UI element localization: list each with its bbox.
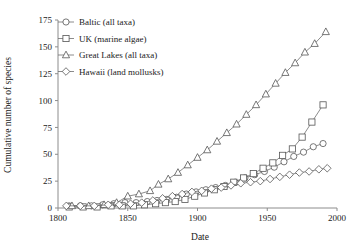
square-marker xyxy=(270,160,276,166)
diamond-marker xyxy=(286,171,294,179)
square-marker xyxy=(250,171,256,177)
diamond-marker xyxy=(276,173,284,181)
legend-item-3[interactable]: Great Lakes (all taxa) xyxy=(58,50,157,60)
diamond-marker xyxy=(256,177,264,185)
y-tick-label: 100 xyxy=(39,96,53,106)
circle-marker xyxy=(63,19,69,25)
diamond-marker xyxy=(315,166,323,174)
square-marker xyxy=(63,35,69,41)
triangle-marker xyxy=(165,175,172,182)
triangle-marker xyxy=(62,51,69,58)
legend-item-1[interactable]: Baltic (all taxa) xyxy=(58,17,135,27)
y-tick-label: 175 xyxy=(39,15,53,25)
y-tick-label: 0 xyxy=(48,203,53,213)
circle-marker xyxy=(281,159,287,165)
x-tick-label: 2000 xyxy=(328,213,347,223)
x-tick-label: 1850 xyxy=(119,213,138,223)
triangle-marker xyxy=(155,180,162,187)
circle-marker xyxy=(291,153,297,159)
triangle-marker xyxy=(322,28,329,35)
triangle-marker xyxy=(194,154,201,161)
legend-label: Hawaii (land mollusks) xyxy=(79,67,164,77)
legend-label: UK (marine algae) xyxy=(79,34,146,44)
x-tick-label: 1950 xyxy=(258,213,277,223)
triangle-marker xyxy=(174,169,181,176)
triangle-marker xyxy=(223,129,230,136)
chart-plot-area: 0255075100125150175 18001850190019502000… xyxy=(0,0,356,247)
y-axis: 0255075100125150175 xyxy=(39,15,59,213)
triangle-marker xyxy=(204,146,211,153)
circle-marker xyxy=(300,149,306,155)
legend-label: Great Lakes (all taxa) xyxy=(79,50,157,60)
chart-legend: Baltic (all taxa)UK (marine algae)Great … xyxy=(58,17,164,77)
triangle-marker xyxy=(147,187,154,194)
y-tick-label: 150 xyxy=(39,42,53,52)
legend-label: Baltic (all taxa) xyxy=(79,17,135,27)
diamond-marker xyxy=(62,68,70,76)
legend-item-4[interactable]: Hawaii (land mollusks) xyxy=(58,67,164,77)
y-tick-label: 125 xyxy=(39,69,53,79)
square-marker xyxy=(320,102,326,108)
diamond-marker xyxy=(266,175,274,183)
diamond-marker xyxy=(296,169,304,177)
circle-marker xyxy=(310,144,316,150)
square-marker xyxy=(279,152,285,158)
y-tick-label: 50 xyxy=(43,149,53,159)
square-marker xyxy=(309,119,315,125)
triangle-marker xyxy=(213,138,220,145)
square-marker xyxy=(260,165,266,171)
circle-marker xyxy=(320,140,326,146)
diamond-marker xyxy=(305,168,313,176)
x-tick-label: 1800 xyxy=(49,213,68,223)
y-tick-label: 75 xyxy=(43,123,53,133)
triangle-marker xyxy=(184,161,191,168)
square-marker xyxy=(299,134,305,140)
diamond-marker xyxy=(323,164,331,172)
chart-figure: 0255075100125150175 18001850190019502000… xyxy=(0,0,356,247)
y-axis-title: Cumulative number of species xyxy=(3,57,13,173)
legend-item-2[interactable]: UK (marine algae) xyxy=(58,34,146,44)
x-tick-label: 1900 xyxy=(189,213,208,223)
x-axis-title: Date xyxy=(191,232,209,242)
square-marker xyxy=(289,146,295,152)
triangle-marker xyxy=(301,48,308,55)
y-tick-label: 25 xyxy=(43,176,53,186)
